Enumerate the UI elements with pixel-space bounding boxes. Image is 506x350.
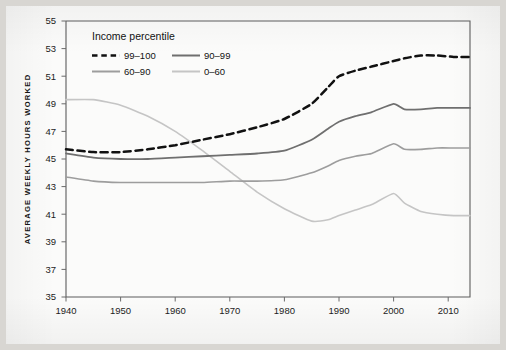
ytick-label: 45 [45, 153, 56, 164]
legend-title: Income percentile [92, 30, 175, 42]
ytick-label: 35 [45, 291, 56, 302]
xtick-label: 1960 [165, 305, 186, 316]
ytick-label: 47 [45, 126, 56, 137]
x-axis-tick-labels: 1940 1950 1960 1970 1980 1990 2000 2010 [55, 305, 458, 316]
ytick-label: 37 [45, 264, 56, 275]
legend-label-0-60: 0–60 [204, 66, 225, 77]
legend-label-60-90: 60–90 [124, 66, 150, 77]
xtick-label: 1940 [55, 305, 76, 316]
x-axis-ticks [66, 297, 448, 302]
chart-page: 55 53 51 49 47 45 43 41 39 37 35 1940 19… [0, 0, 506, 350]
legend: Income percentile 99–100 90–99 60–90 0–6… [92, 30, 230, 77]
xtick-label: 2010 [438, 305, 459, 316]
series-group [66, 55, 470, 221]
xtick-label: 1990 [328, 305, 349, 316]
line-chart: 55 53 51 49 47 45 43 41 39 37 35 1940 19… [0, 0, 506, 350]
ytick-label: 41 [45, 209, 56, 220]
ytick-label: 51 [45, 71, 56, 82]
legend-label-90-99: 90–99 [204, 50, 230, 61]
ytick-label: 39 [45, 236, 56, 247]
y-axis-title: AVERAGE WEEKLY HOURS WORKED [23, 74, 32, 245]
ytick-label: 55 [45, 15, 56, 26]
y-axis-tick-labels: 55 53 51 49 47 45 43 41 39 37 35 [45, 15, 56, 302]
ytick-label: 53 [45, 43, 56, 54]
xtick-label: 1980 [274, 305, 295, 316]
ytick-label: 43 [45, 181, 56, 192]
legend-label-99-100: 99–100 [124, 50, 156, 61]
ytick-label: 49 [45, 98, 56, 109]
xtick-label: 1950 [110, 305, 131, 316]
series-line-0-60 [66, 99, 470, 221]
y-axis-ticks [62, 21, 67, 297]
xtick-label: 1970 [219, 305, 240, 316]
series-line-60-90 [66, 144, 470, 183]
xtick-label: 2000 [383, 305, 404, 316]
